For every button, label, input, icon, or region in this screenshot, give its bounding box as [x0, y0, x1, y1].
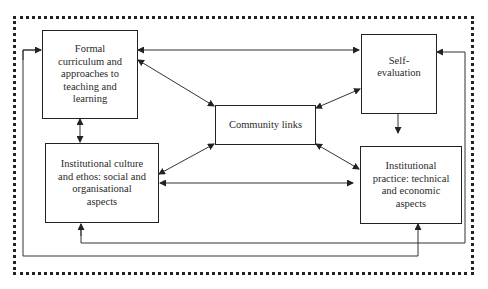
node-institutional-practice: Institutional practice: technical and ec…: [360, 146, 462, 224]
node-formal-curriculum: Formal curriculum and approaches to teac…: [42, 30, 138, 119]
node-institutional-culture: Institutional culture and ethos: social …: [45, 143, 159, 223]
node-label-line: learning: [58, 93, 122, 106]
node-label-line: Institutional: [373, 160, 450, 173]
node-label-line: and ethos: social and: [58, 171, 146, 184]
node-label-line: approaches to: [58, 68, 122, 81]
node-label-line: curriculum and: [58, 56, 122, 69]
node-community-links: Community links: [215, 105, 316, 145]
node-label-line: Formal: [58, 43, 122, 56]
node-label-line: Institutional culture: [58, 158, 146, 171]
node-label-line: Community links: [229, 119, 302, 132]
node-label-line: and economic: [373, 185, 450, 198]
node-label-line: aspects: [58, 196, 146, 209]
node-label-line: aspects: [373, 198, 450, 211]
node-label-line: practice: technical: [373, 173, 450, 186]
node-label-line: organisational: [58, 183, 146, 196]
node-self-evaluation: Self- evaluation: [361, 34, 437, 114]
node-label-line: Self-: [377, 55, 421, 68]
node-label-line: teaching and: [58, 81, 122, 94]
node-label-line: evaluation: [377, 67, 421, 80]
